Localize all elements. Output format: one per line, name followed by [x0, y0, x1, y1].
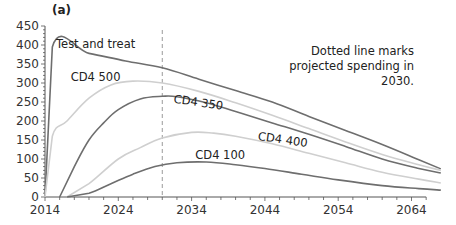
- x-axis: 201420242034204420542064: [30, 197, 427, 217]
- y-tick-label: 450: [16, 19, 39, 33]
- y-tick-label: 400: [16, 38, 39, 52]
- series-cd4-350-label: CD4 350: [173, 92, 224, 113]
- x-tick-label: 2014: [30, 203, 61, 217]
- y-tick-label: 200: [16, 114, 39, 128]
- y-axis: 050100150200250300350400450: [16, 19, 45, 204]
- y-tick-label: 300: [16, 76, 39, 90]
- x-tick-label: 2054: [323, 203, 354, 217]
- x-tick-label: 2034: [176, 203, 207, 217]
- y-tick-label: 150: [16, 133, 39, 147]
- panel-label: (a): [52, 3, 71, 17]
- y-tick-label: 0: [31, 190, 39, 204]
- series-test-and-treat-label: Test and treat: [55, 37, 136, 51]
- annotation-note: Dotted line marks projected spending in …: [254, 44, 414, 89]
- y-tick-label: 50: [24, 171, 39, 185]
- y-tick-label: 250: [16, 95, 39, 109]
- y-tick-label: 100: [16, 152, 39, 166]
- x-tick-label: 2064: [396, 203, 427, 217]
- series-cd4-400-line: [67, 132, 441, 197]
- series-cd4-500-label: CD4 500: [71, 70, 121, 84]
- y-tick-label: 350: [16, 57, 39, 71]
- series-cd4-500-line: [45, 81, 441, 197]
- line-chart: 050100150200250300350400450 201420242034…: [0, 0, 456, 225]
- series-cd4-100-label: CD4 100: [195, 148, 245, 162]
- x-tick-label: 2024: [103, 203, 134, 217]
- series-cd4-100-line: [67, 162, 441, 197]
- x-tick-label: 2044: [250, 203, 281, 217]
